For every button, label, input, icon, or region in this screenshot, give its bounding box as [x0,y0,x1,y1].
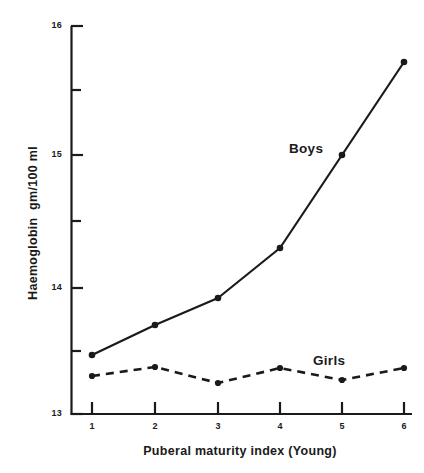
girls-point-6 [401,365,407,371]
x-axis-ticks [92,402,404,414]
girls-line [92,367,404,383]
y-axis-title-unit-denominator: 100 ml [26,146,40,187]
series-girls [89,364,407,386]
y-axis-title: Haemoglobin gm/100 ml [26,108,40,338]
x-tick-label-5: 5 [332,421,352,431]
series-label-boys: Boys [289,141,323,156]
girls-point-5 [339,377,345,383]
y-axis-ticks [71,26,83,414]
girls-point-3 [215,380,221,386]
x-tick-label-4: 4 [270,421,290,431]
boys-point-1 [89,352,96,359]
girls-point-2 [152,364,158,370]
y-axis-title-name: Haemoglobin [26,217,40,299]
line-chart-canvas [0,0,424,473]
y-tick-label-15: 15 [38,149,62,159]
boys-point-3 [215,295,222,302]
series-boys [89,59,408,359]
y-axis-title-unit-numerator: gm/ [26,187,40,210]
y-tick-label-13: 13 [38,408,62,418]
axis-lines [71,26,413,415]
boys-point-4 [277,245,284,252]
boys-point-6 [401,59,408,66]
girls-point-4 [277,365,283,371]
y-tick-label-16: 16 [38,20,62,30]
x-tick-label-1: 1 [82,421,102,431]
x-axis-title: Puberal maturity index (Young) [60,444,420,458]
x-tick-label-6: 6 [394,421,414,431]
y-tick-label-14: 14 [38,282,62,292]
chart-figure: 16 15 14 13 1 2 3 4 5 6 Boys Girls Haemo… [0,0,424,473]
girls-point-1 [89,373,95,379]
series-label-girls: Girls [313,353,345,368]
x-tick-label-3: 3 [208,421,228,431]
boys-line [92,62,404,355]
boys-point-5 [339,152,346,159]
boys-point-2 [152,322,159,329]
x-tick-label-2: 2 [145,421,165,431]
